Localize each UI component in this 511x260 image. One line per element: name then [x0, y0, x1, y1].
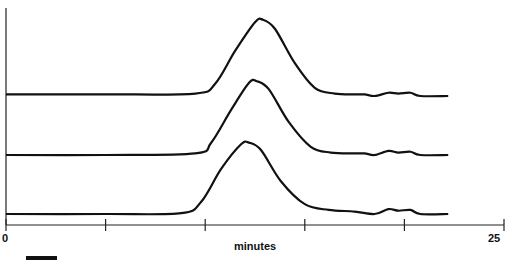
trace-top — [6, 19, 448, 97]
x-tick-label-end: 25 — [488, 232, 500, 244]
x-axis-title: minutes — [234, 240, 276, 252]
trace-middle — [6, 80, 448, 155]
chromatogram-chart — [0, 0, 511, 260]
traces — [6, 19, 448, 215]
x-tick-label-start: 0 — [2, 232, 8, 244]
scale-bar — [26, 256, 57, 260]
